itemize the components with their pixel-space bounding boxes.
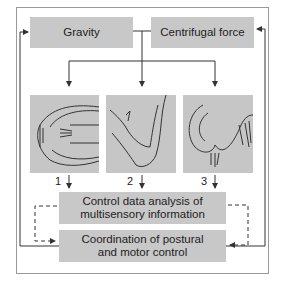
connector-lines [0, 0, 281, 285]
